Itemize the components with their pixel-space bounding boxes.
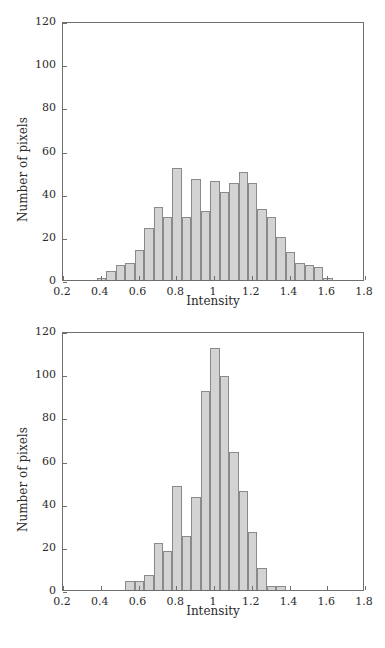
y-axis-tick-label: 20 bbox=[26, 541, 56, 554]
y-axis-tick bbox=[63, 592, 67, 593]
histogram-bar bbox=[229, 452, 238, 590]
plot-area-top bbox=[62, 22, 364, 281]
y-axis-tick-label: 60 bbox=[26, 455, 56, 468]
histogram-panel-bottom: 0.20.40.60.811.21.41.61.8 02040608010012… bbox=[0, 324, 385, 648]
histogram-bar bbox=[267, 217, 276, 280]
y-axis-tick-label: 20 bbox=[26, 231, 56, 244]
y-axis-tick-label: 80 bbox=[26, 101, 56, 114]
x-axis-tick bbox=[139, 586, 140, 590]
y-axis-tick-label: 120 bbox=[26, 325, 56, 338]
bars-top bbox=[63, 23, 363, 280]
histogram-bar bbox=[154, 543, 163, 590]
histogram-bar bbox=[257, 209, 266, 280]
x-axis-label-bottom: Intensity bbox=[62, 604, 364, 618]
plot-area-bottom bbox=[62, 332, 364, 591]
y-axis-tick bbox=[63, 109, 67, 110]
histogram-bar bbox=[229, 183, 238, 280]
histogram-bar bbox=[172, 486, 181, 590]
histogram-bar bbox=[182, 536, 191, 590]
x-axis-tick bbox=[101, 276, 102, 280]
y-axis-tick-label: 40 bbox=[26, 188, 56, 201]
histogram-bar bbox=[314, 267, 323, 280]
y-axis-tick bbox=[63, 419, 67, 420]
histogram-bar bbox=[248, 183, 257, 280]
histogram-bar bbox=[239, 491, 248, 590]
histogram-bar bbox=[116, 265, 125, 280]
histogram-bar bbox=[191, 179, 200, 280]
histogram-bar bbox=[239, 172, 248, 280]
histogram-bar bbox=[210, 181, 219, 280]
x-axis-tick bbox=[365, 276, 366, 280]
y-axis-tick bbox=[63, 506, 67, 507]
histogram-bar bbox=[305, 265, 314, 280]
x-axis-tick bbox=[63, 276, 64, 280]
x-axis-tick bbox=[327, 586, 328, 590]
y-axis-tick bbox=[63, 463, 67, 464]
y-axis-tick bbox=[63, 66, 67, 67]
x-axis-tick bbox=[252, 276, 253, 280]
y-axis-tick-label: 120 bbox=[26, 15, 56, 28]
histogram-bar bbox=[154, 207, 163, 280]
y-axis-tick bbox=[63, 196, 67, 197]
histogram-bar bbox=[201, 391, 210, 590]
histogram-bar bbox=[125, 263, 134, 280]
histogram-bar bbox=[191, 497, 200, 590]
y-axis-tick bbox=[63, 153, 67, 154]
x-axis-tick bbox=[214, 586, 215, 590]
x-axis-tick bbox=[214, 276, 215, 280]
histogram-bar bbox=[172, 168, 181, 280]
histogram-bar bbox=[220, 376, 229, 590]
histogram-bar bbox=[267, 586, 276, 590]
histogram-bar bbox=[163, 217, 172, 280]
histogram-bar bbox=[144, 575, 153, 590]
x-axis-tick bbox=[290, 276, 291, 280]
y-axis-tick-label: 100 bbox=[26, 368, 56, 381]
histogram-bar bbox=[163, 551, 172, 590]
x-axis-tick bbox=[365, 586, 366, 590]
x-axis-tick bbox=[176, 586, 177, 590]
y-axis-tick bbox=[63, 23, 67, 24]
histogram-bar bbox=[125, 581, 134, 590]
y-axis-tick bbox=[63, 549, 67, 550]
y-axis-label-top: Number of pixels bbox=[16, 117, 30, 222]
histogram-bar bbox=[210, 348, 219, 590]
histogram-bar bbox=[248, 532, 257, 590]
histogram-bar bbox=[144, 228, 153, 280]
y-axis-tick-label: 100 bbox=[26, 58, 56, 71]
histogram-bar bbox=[182, 217, 191, 280]
histogram-bar bbox=[220, 192, 229, 280]
x-axis-tick bbox=[63, 586, 64, 590]
x-axis-tick bbox=[290, 586, 291, 590]
x-axis-tick bbox=[101, 586, 102, 590]
x-axis-tick bbox=[327, 276, 328, 280]
histogram-bar bbox=[276, 586, 285, 590]
x-axis-label-top: Intensity bbox=[62, 294, 364, 308]
histogram-bar bbox=[276, 237, 285, 280]
y-axis-label-bottom: Number of pixels bbox=[16, 427, 30, 532]
histogram-bar bbox=[106, 271, 115, 280]
y-axis-tick bbox=[63, 282, 67, 283]
bars-bottom bbox=[63, 333, 363, 590]
y-axis-tick bbox=[63, 376, 67, 377]
histogram-bar bbox=[201, 211, 210, 280]
histogram-bar bbox=[295, 263, 304, 280]
y-axis-tick-label: 60 bbox=[26, 145, 56, 158]
histogram-bar bbox=[257, 568, 266, 590]
histogram-panel-top: 0.20.40.60.811.21.41.61.8 02040608010012… bbox=[0, 0, 385, 324]
y-axis-tick bbox=[63, 333, 67, 334]
y-axis-tick-label: 0 bbox=[26, 584, 56, 597]
x-axis-tick bbox=[176, 276, 177, 280]
y-axis-tick-label: 0 bbox=[26, 274, 56, 287]
y-axis-tick-label: 40 bbox=[26, 498, 56, 511]
x-axis-tick bbox=[252, 586, 253, 590]
y-axis-tick-label: 80 bbox=[26, 411, 56, 424]
y-axis-tick bbox=[63, 239, 67, 240]
figure-page: 0.20.40.60.811.21.41.61.8 02040608010012… bbox=[0, 0, 385, 648]
x-axis-tick bbox=[139, 276, 140, 280]
